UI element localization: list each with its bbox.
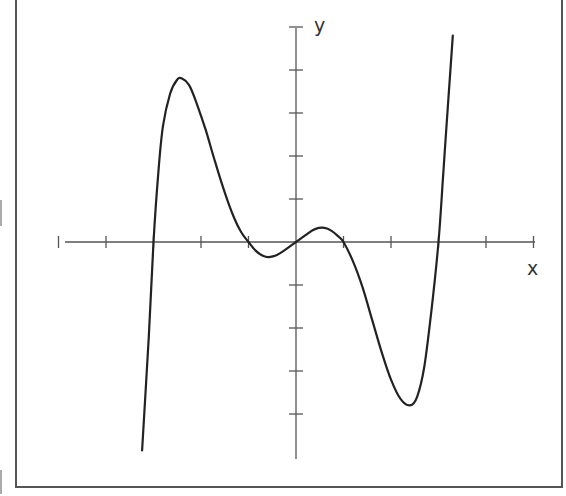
x-axis-label: x [527,257,538,279]
y-axis-label: y [314,14,325,36]
function-curve [142,36,453,451]
axes [59,27,536,459]
chart-stage: y x [0,0,566,496]
plot-area [0,0,566,496]
